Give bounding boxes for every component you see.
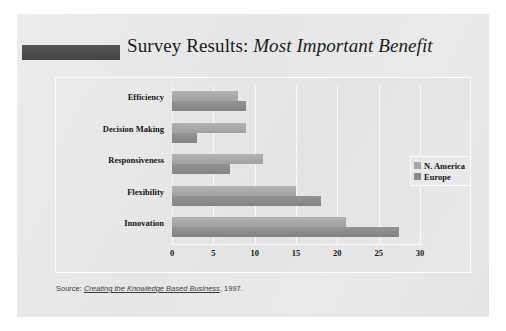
x-tick-label: 30 (405, 248, 435, 258)
chart-frame: EfficiencyDecision MakingResponsivenessF… (55, 77, 471, 273)
bar-europe (172, 101, 246, 111)
category-label: Efficiency (54, 92, 164, 102)
legend-label: Europe (424, 172, 451, 182)
plot-area: EfficiencyDecision MakingResponsivenessF… (172, 86, 420, 244)
title-row: Survey Results: Most Important Benefit (17, 40, 489, 68)
page-title-plain: Survey Results: (127, 35, 248, 56)
x-axis-line (172, 244, 421, 245)
x-tick-label: 25 (364, 248, 394, 258)
bar-europe (172, 196, 321, 206)
legend-label: N. America (424, 161, 465, 171)
category-label: Decision Making (54, 124, 164, 134)
bar-n-america (172, 91, 238, 101)
legend-swatch-icon (414, 162, 421, 169)
source-note: Source: Creating the Knowledge Based Bus… (56, 284, 243, 293)
x-tick-label: 5 (198, 248, 228, 258)
bar-europe (172, 164, 230, 174)
bar-row: Decision Making (172, 118, 420, 150)
page-title-italic: Most Important Benefit (253, 35, 433, 56)
category-label: Innovation (54, 218, 164, 228)
source-work-title: Creating the Knowledge Based Business (84, 284, 220, 293)
bar-row: Responsiveness (172, 149, 420, 181)
bar-n-america (172, 217, 346, 227)
bar-n-america (172, 123, 246, 133)
category-label: Flexibility (54, 187, 164, 197)
chart-legend: N. AmericaEurope (410, 156, 471, 186)
source-suffix: , 1997. (220, 284, 243, 293)
x-tick-label: 20 (322, 248, 352, 258)
legend-item: N. America (414, 160, 465, 171)
bar-europe (172, 133, 197, 143)
category-label: Responsiveness (54, 155, 164, 165)
bar-europe (172, 227, 399, 237)
slide-canvas: Survey Results: Most Important Benefit E… (17, 14, 489, 317)
x-tick-label: 15 (281, 248, 311, 258)
x-tick-label: 0 (157, 248, 187, 258)
legend-item: Europe (414, 171, 465, 182)
bar-row: Flexibility (172, 181, 420, 213)
legend-swatch-icon (414, 173, 421, 180)
bar-n-america (172, 154, 263, 164)
bar-n-america (172, 186, 296, 196)
bar-row: Innovation (172, 212, 420, 244)
page-title: Survey Results: Most Important Benefit (127, 35, 487, 57)
x-tick-label: 10 (240, 248, 270, 258)
source-prefix: Source: (56, 284, 82, 293)
bar-row: Efficiency (172, 86, 420, 118)
title-accent-bar (22, 45, 120, 60)
